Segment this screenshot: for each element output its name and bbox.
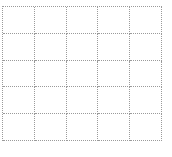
grid-cell xyxy=(130,87,162,114)
grid-cell xyxy=(67,87,99,114)
grid-cell xyxy=(35,34,67,61)
grid-cell xyxy=(98,61,130,88)
grid-cell xyxy=(98,114,130,141)
grid-cell xyxy=(130,34,162,61)
grid-cell xyxy=(130,114,162,141)
grid-cell xyxy=(67,34,99,61)
grid-cell xyxy=(67,7,99,34)
grid-cell xyxy=(35,61,67,88)
grid-cell xyxy=(3,61,35,88)
grid-cell xyxy=(3,114,35,141)
grid-cell xyxy=(98,7,130,34)
grid-cell xyxy=(35,7,67,34)
grid-cell xyxy=(130,7,162,34)
grid-cell xyxy=(35,87,67,114)
grid-cell xyxy=(3,7,35,34)
grid-cell xyxy=(98,34,130,61)
grid-cell xyxy=(98,87,130,114)
grid-cell xyxy=(130,61,162,88)
grid-cell xyxy=(67,114,99,141)
grid-cell xyxy=(3,87,35,114)
grid-cell xyxy=(3,34,35,61)
grid-cell xyxy=(35,114,67,141)
grid-cell xyxy=(67,61,99,88)
empty-grid xyxy=(2,6,162,141)
